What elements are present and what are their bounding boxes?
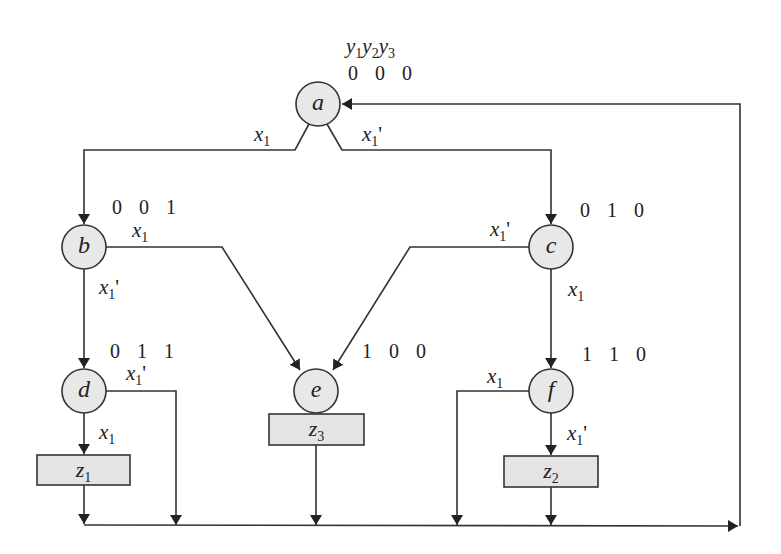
- cond-f-to-a: x1: [487, 366, 503, 391]
- cond-d-to-a: x1': [126, 363, 146, 388]
- cond-c-to-f: x1: [568, 279, 584, 304]
- state-b-code: 0 0 1: [112, 197, 182, 217]
- state-f-label: f: [529, 377, 573, 401]
- cond-a-to-b: x1: [254, 124, 270, 149]
- edge-a-to-c: [327, 124, 551, 224]
- state-c-code: 0 1 0: [580, 200, 650, 220]
- state-a-label: a: [296, 90, 340, 114]
- state-variable-header: y1y2y3: [346, 36, 395, 61]
- state-d-code: 0 1 1: [110, 341, 180, 361]
- state-c-label: c: [529, 233, 573, 257]
- cond-a-to-c: x1': [362, 124, 382, 149]
- output-z1-label: z1: [37, 459, 130, 485]
- state-b-label: b: [62, 233, 106, 257]
- state-e-code: 1 0 0: [362, 341, 432, 361]
- cond-c-to-e: x1': [490, 219, 510, 244]
- state-e-label: e: [294, 377, 338, 401]
- state-d-label: d: [62, 377, 106, 401]
- return-bus: [84, 525, 738, 526]
- cond-b-to-d: x1': [99, 277, 119, 302]
- output-z2-label: z2: [504, 460, 598, 486]
- state-a-code: 0 0 0: [348, 63, 418, 83]
- cond-d-to-z1: x1: [99, 422, 115, 447]
- output-z3-label: z3: [269, 418, 364, 444]
- state-f-code: 1 1 0: [582, 344, 652, 364]
- cond-b-to-e: x1: [132, 220, 148, 245]
- cond-f-to-z2: x1': [567, 423, 587, 448]
